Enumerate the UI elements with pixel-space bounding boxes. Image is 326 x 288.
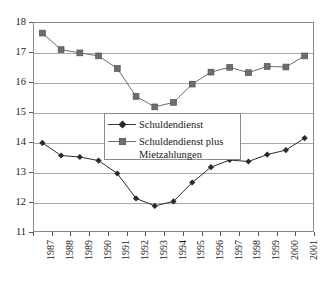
y-tick-label: 13 xyxy=(16,167,27,178)
x-tick-label: 1987 xyxy=(46,240,56,260)
line-chart: 1112131415161718 19871988198919901991199… xyxy=(0,0,326,288)
y-tick-label: 14 xyxy=(16,137,27,148)
y-tick-label: 18 xyxy=(16,17,27,28)
x-tick-mark xyxy=(277,232,278,236)
x-tick-mark xyxy=(314,232,315,236)
data-point-diamond xyxy=(39,140,45,146)
series-2 xyxy=(39,30,307,110)
y-tick-label: 16 xyxy=(16,77,27,88)
data-point-square xyxy=(58,47,64,53)
data-point-square xyxy=(189,81,195,87)
data-point-square xyxy=(96,53,102,59)
data-point-square xyxy=(264,64,270,70)
legend-label: Schuldendienst xyxy=(139,119,203,132)
x-tick-label: 1995 xyxy=(196,240,206,260)
x-tick-label: 2000 xyxy=(290,240,300,260)
y-tick-label: 17 xyxy=(16,47,27,58)
x-tick-mark xyxy=(52,232,53,236)
x-tick-mark xyxy=(239,232,240,236)
data-point-diamond xyxy=(77,154,83,160)
data-point-diamond xyxy=(95,158,101,164)
legend-key-diamond-icon xyxy=(105,119,139,131)
data-point-square xyxy=(246,70,252,76)
data-point-square xyxy=(283,64,289,70)
chart-legend: Schuldendienst Schuldendienst plus Mietz… xyxy=(104,113,241,160)
data-point-square xyxy=(114,66,120,72)
x-tick-mark xyxy=(183,232,184,236)
data-point-diamond xyxy=(302,135,308,141)
data-point-square xyxy=(302,53,308,59)
x-tick-label: 2001 xyxy=(309,240,319,260)
x-tick-mark xyxy=(70,232,71,236)
data-point-square xyxy=(39,30,45,36)
x-axis: 1987198819891990199119921993199419951996… xyxy=(0,232,326,288)
legend-item-schuldendienst: Schuldendienst xyxy=(105,119,240,132)
data-point-square xyxy=(171,100,177,106)
legend-key-square-icon xyxy=(105,136,139,148)
data-point-diamond xyxy=(152,203,158,209)
legend-item-schuldendienst-plus-mietzahlungen: Schuldendienst plus Mietzahlungen xyxy=(105,136,240,161)
x-tick-mark xyxy=(108,232,109,236)
x-tick-mark xyxy=(202,232,203,236)
x-tick-label: 1993 xyxy=(159,240,169,260)
data-point-diamond xyxy=(58,152,64,158)
x-tick-label: 1996 xyxy=(215,240,225,260)
x-tick-label: 1997 xyxy=(234,240,244,260)
y-tick-label: 15 xyxy=(16,107,27,118)
legend-label: Schuldendienst plus Mietzahlungen xyxy=(139,136,223,161)
data-point-square xyxy=(227,64,233,70)
data-point-square xyxy=(133,94,139,100)
y-tick-label: 12 xyxy=(16,197,27,208)
x-tick-label: 1998 xyxy=(252,240,262,260)
x-tick-mark xyxy=(145,232,146,236)
data-point-square xyxy=(77,50,83,56)
x-tick-label: 1989 xyxy=(84,240,94,260)
x-tick-mark xyxy=(164,232,165,236)
series-line xyxy=(42,33,304,107)
data-point-square xyxy=(152,104,158,110)
x-tick-label: 1999 xyxy=(271,240,281,260)
x-tick-mark xyxy=(258,232,259,236)
data-point-diamond xyxy=(264,152,270,158)
x-tick-label: 1994 xyxy=(178,240,188,260)
x-tick-mark xyxy=(89,232,90,236)
x-tick-mark xyxy=(127,232,128,236)
data-point-diamond xyxy=(283,147,289,153)
x-tick-label: 1990 xyxy=(103,240,113,260)
data-point-diamond xyxy=(245,158,251,164)
x-tick-mark xyxy=(33,232,34,236)
x-tick-mark xyxy=(220,232,221,236)
x-tick-label: 1988 xyxy=(65,240,75,260)
x-tick-label: 1992 xyxy=(140,240,150,260)
x-tick-mark xyxy=(295,232,296,236)
data-point-square xyxy=(208,69,214,75)
x-tick-label: 1991 xyxy=(121,240,131,260)
